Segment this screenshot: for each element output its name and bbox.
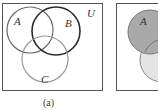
- set-a-label: A: [13, 15, 21, 27]
- universe-label: U: [87, 7, 96, 19]
- venn-diagram-a: A B U C (a): [3, 4, 103, 110]
- set-b-label: B: [65, 17, 72, 29]
- venn-diagram-figure: A B U C (a) A: [0, 0, 158, 109]
- set-c-label: C: [41, 73, 49, 85]
- caption-a: (a): [43, 97, 54, 109]
- venn-diagram-b: A: [117, 4, 159, 91]
- set-a-label-b: A: [139, 15, 147, 27]
